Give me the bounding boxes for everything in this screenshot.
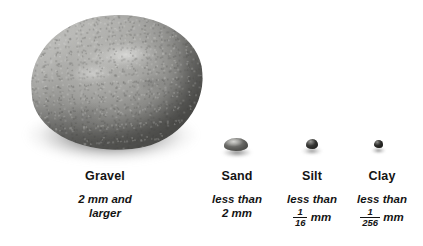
silt-size-label: less than 1 16 mm [274, 193, 350, 228]
sand-name-label: Sand [199, 169, 275, 184]
sediment-size-figure: Gravel 2 mm and larger Sand less than 2 … [0, 0, 423, 246]
gravel-specimen-image [14, 8, 214, 168]
gravel-size-label: 2 mm and larger [50, 193, 160, 220]
clay-size-label: less than 1 256 mm [344, 193, 420, 228]
clay-shadow [370, 147, 387, 154]
clay-fraction-numerator: 1 [366, 207, 375, 217]
gravel-name-label: Gravel [50, 169, 160, 184]
gravel-size-line-2: larger [50, 207, 160, 221]
silt-specimen-image [297, 135, 327, 161]
silt-name-label: Silt [274, 169, 350, 184]
clay-name-label: Clay [344, 169, 420, 184]
sand-size-line-2: 2 mm [199, 207, 275, 221]
clay-grain-shape [374, 140, 383, 148]
clay-fraction: 1 256 [360, 207, 380, 228]
silt-fraction-unit: mm [311, 210, 331, 222]
sand-grain-shape [224, 138, 248, 151]
clay-fraction-unit: mm [383, 210, 403, 222]
silt-grain-shape [306, 139, 318, 149]
sand-size-label: less than 2 mm [199, 193, 275, 220]
clay-size-line-1: less than [357, 193, 407, 205]
specimen-layer [0, 0, 423, 170]
silt-label-column: Silt less than 1 16 mm [274, 169, 350, 228]
clay-specimen-image [366, 137, 392, 161]
gravel-label-column: Gravel 2 mm and larger [50, 169, 160, 220]
silt-fraction-denominator: 16 [293, 218, 308, 228]
gravel-size-line-1: 2 mm and [78, 193, 132, 205]
sand-label-column: Sand less than 2 mm [199, 169, 275, 220]
clay-label-column: Clay less than 1 256 mm [344, 169, 420, 228]
silt-fraction: 1 16 [293, 207, 308, 228]
silt-size-line-1: less than [287, 193, 337, 205]
clay-fraction-denominator: 256 [360, 218, 380, 228]
silt-fraction-numerator: 1 [296, 207, 305, 217]
sand-specimen-image [217, 132, 257, 162]
sand-size-line-1: less than [212, 193, 262, 205]
silt-fraction-row: 1 16 mm [274, 207, 350, 228]
clay-fraction-row: 1 256 mm [344, 207, 420, 228]
